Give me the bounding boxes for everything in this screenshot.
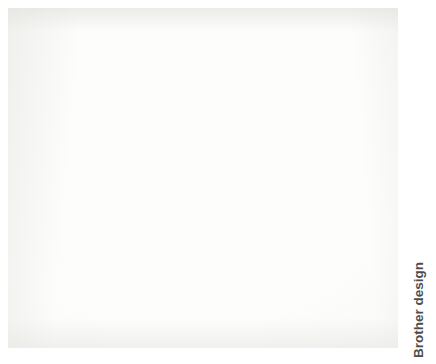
page-root: Brother design [0,0,436,364]
center-medallion-crosshatch [96,8,296,348]
quilting-design-photograph [8,8,398,348]
photo-credit-area: Brother design [400,0,436,364]
quilting-pattern-illustration [8,8,398,348]
photo-credit-label: Brother design [411,262,426,358]
feather-petal-ring [68,47,325,304]
